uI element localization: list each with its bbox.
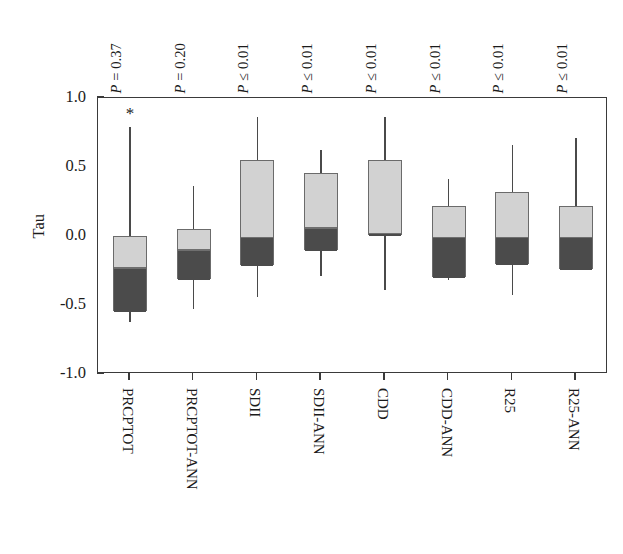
box-rect (240, 160, 274, 265)
y-tick-label: -1.0 (34, 365, 86, 382)
whisker-lower (512, 264, 513, 296)
x-category-text: SDII-ANN (311, 388, 326, 455)
median-line (496, 237, 528, 238)
x-category-label: CDD (373, 388, 395, 548)
whisker-upper (320, 150, 321, 172)
box-upper-quartile-fill (433, 207, 465, 237)
median-line (560, 237, 592, 238)
y-tick-label: 0.5 (34, 158, 86, 175)
whisker-lower (193, 279, 194, 309)
box-plot-item (304, 98, 338, 374)
median-line (241, 237, 273, 238)
box-upper-quartile-fill (241, 161, 273, 237)
y-tick-label: -0.5 (34, 296, 86, 313)
box-rect (368, 160, 402, 235)
box-rect (495, 192, 529, 264)
box-plot-item (559, 98, 593, 374)
x-category-label: R25-ANN (564, 388, 586, 548)
whisker-lower (257, 265, 258, 297)
x-category-label: PRCPTOT (118, 388, 140, 548)
box-plot-figure: P = 0.37P = 0.20P ≤ 0.01P ≤ 0.01P ≤ 0.01… (0, 0, 623, 554)
x-tick-mark (574, 373, 575, 380)
box-lower-quartile-fill (114, 267, 146, 311)
whisker-upper (193, 186, 194, 229)
box-lower-quartile-fill (241, 237, 273, 266)
whisker-upper (448, 179, 449, 205)
box-upper-quartile-fill (114, 237, 146, 267)
x-tick-mark (128, 373, 129, 380)
x-category-text: R25 (502, 388, 517, 413)
x-category-label: CDD-ANN (437, 388, 459, 548)
box-rect (304, 173, 338, 250)
x-tick-mark (319, 373, 320, 380)
x-category-text: PRCPTOT-ANN (184, 388, 199, 490)
x-category-text: R25-ANN (566, 388, 581, 451)
x-category-text: CDD (375, 388, 390, 420)
box-plot-item (240, 98, 274, 374)
box-lower-quartile-fill (560, 237, 592, 270)
whisker-lower (384, 235, 385, 290)
box-rect (432, 206, 466, 278)
whisker-upper (512, 145, 513, 192)
box-upper-quartile-fill (369, 161, 401, 233)
box-lower-quartile-fill (305, 227, 337, 250)
box-rect (177, 229, 211, 279)
median-line (369, 233, 401, 234)
x-category-text: CDD-ANN (439, 388, 454, 457)
whisker-lower (129, 311, 130, 322)
box-upper-quartile-fill (560, 207, 592, 237)
median-line (305, 227, 337, 228)
y-tick-label: 0.0 (34, 227, 86, 244)
median-line (178, 249, 210, 250)
whisker-upper (129, 127, 130, 236)
plot-area: * (97, 97, 607, 373)
x-category-label: SDII-ANN (309, 388, 331, 548)
median-line (433, 237, 465, 238)
whisker-upper (575, 138, 576, 206)
x-tick-mark (192, 373, 193, 380)
x-category-text: PRCPTOT (120, 388, 135, 454)
whisker-upper (257, 117, 258, 160)
x-tick-mark (447, 373, 448, 380)
box-lower-quartile-fill (178, 249, 210, 279)
box-lower-quartile-fill (433, 237, 465, 278)
x-category-text: SDII (247, 388, 262, 417)
x-category-label: PRCPTOT-ANN (182, 388, 204, 548)
x-category-label: SDII (245, 388, 267, 548)
box-plot-item (177, 98, 211, 374)
whisker-lower (320, 250, 321, 276)
x-tick-mark (256, 373, 257, 380)
box-plot-item: * (113, 98, 147, 374)
box-upper-quartile-fill (496, 193, 528, 237)
median-line (114, 267, 146, 268)
box-lower-quartile-fill (496, 237, 528, 265)
box-upper-quartile-fill (305, 174, 337, 228)
y-tick-label: 1.0 (34, 89, 86, 106)
outlier-marker-icon: * (126, 105, 135, 122)
box-plot-item (495, 98, 529, 374)
x-tick-mark (511, 373, 512, 380)
box-upper-quartile-fill (178, 230, 210, 249)
x-tick-mark (383, 373, 384, 380)
box-rect (113, 236, 147, 311)
box-rect (559, 206, 593, 269)
whisker-upper (384, 117, 385, 160)
box-plot-item (432, 98, 466, 374)
x-category-label: R25 (500, 388, 522, 548)
box-plot-item (368, 98, 402, 374)
